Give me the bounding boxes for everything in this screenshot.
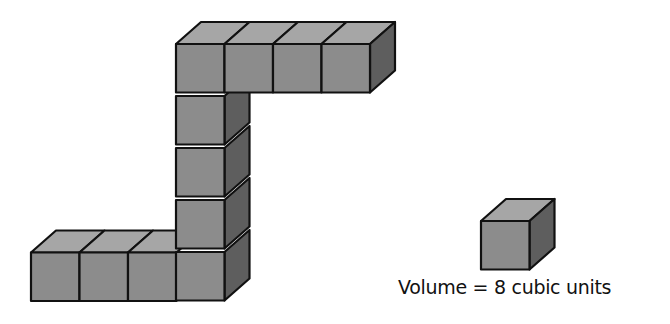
cube-front-face xyxy=(128,253,177,302)
cube-front-face xyxy=(176,148,225,197)
cube-front-face xyxy=(176,96,225,145)
cube-front-face xyxy=(225,44,274,93)
cube-front-face xyxy=(176,252,225,301)
cube-front-face xyxy=(273,44,322,93)
cube-front-face xyxy=(31,253,80,302)
cube-front-face xyxy=(80,253,129,302)
cube-front-face xyxy=(481,221,530,270)
volume-caption: Volume = 8 cubic units xyxy=(398,276,638,298)
cube-front-face xyxy=(176,200,225,249)
cube-front-face xyxy=(322,44,371,93)
cube-front-face xyxy=(176,44,225,93)
